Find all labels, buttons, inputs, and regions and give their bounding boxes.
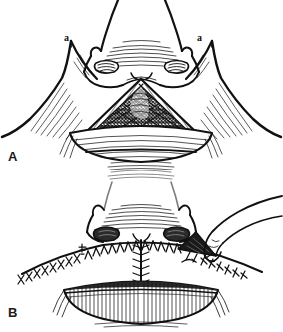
- nose: [84, 0, 199, 87]
- surgical-figure: a a: [0, 0, 283, 332]
- forceps-hand: [204, 196, 282, 261]
- right-nostril: [165, 61, 189, 74]
- annotation-a-left-panel-a: a: [64, 33, 69, 43]
- left-cheek-flap: [2, 41, 97, 139]
- upper-lip: [60, 126, 222, 170]
- panel-a-drawing: [0, 0, 283, 170]
- panel-b-drawing: [0, 170, 283, 332]
- panel-b: a a: [0, 170, 283, 332]
- left-nostril: [95, 61, 119, 74]
- panel-a: a a: [0, 0, 283, 170]
- right-nostril: [164, 227, 190, 241]
- upper-lip: [53, 274, 229, 327]
- panel-label-a: A: [8, 150, 18, 163]
- panel-label-b: B: [8, 306, 18, 319]
- left-nasolabial-suture-line: [18, 244, 86, 284]
- nose: [87, 182, 196, 242]
- panel-a-lip-remnant: [108, 170, 174, 179]
- right-cheek-flap: [186, 41, 281, 139]
- left-nostril: [94, 227, 120, 241]
- annotation-a-right-panel-a: a: [197, 33, 202, 43]
